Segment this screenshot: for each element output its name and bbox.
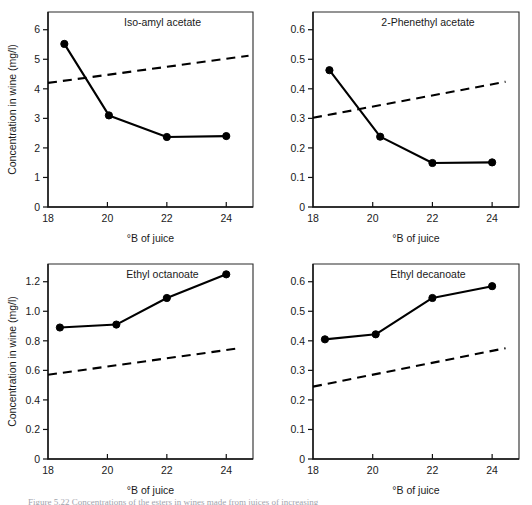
data-point-marker bbox=[113, 321, 120, 328]
data-point-marker bbox=[326, 67, 333, 74]
x-tick-label: 18 bbox=[42, 212, 54, 224]
figure-caption: Figure 5.22 Concentrations of the esters… bbox=[0, 497, 532, 505]
x-tick-label: 20 bbox=[102, 212, 114, 224]
data-point-marker bbox=[105, 112, 112, 119]
series-line-measured bbox=[64, 44, 226, 137]
chart-svg: 00.10.20.30.40.50.618202224Ethyl decanoa… bbox=[266, 252, 532, 504]
x-tick-label: 20 bbox=[367, 464, 379, 476]
x-tick-label: 18 bbox=[307, 212, 319, 224]
y-tick-label: 0.2 bbox=[290, 394, 305, 406]
y-tick-label: 0.6 bbox=[290, 275, 305, 287]
y-tick-label: 0 bbox=[34, 201, 40, 213]
y-tick-label: 2 bbox=[34, 142, 40, 154]
y-tick-label: 1 bbox=[34, 171, 40, 183]
chart-title: Iso-amyl acetate bbox=[124, 16, 201, 28]
y-tick-label: 0.1 bbox=[290, 423, 305, 435]
x-tick-label: 24 bbox=[220, 212, 232, 224]
x-tick-label: 20 bbox=[102, 464, 114, 476]
x-tick-label: 24 bbox=[486, 464, 498, 476]
chart-title: Ethyl octanoate bbox=[126, 268, 199, 280]
figure-container: 012345618202224Iso-amyl acetate°B of jui… bbox=[0, 0, 532, 505]
data-point-marker bbox=[163, 294, 170, 301]
plot-frame bbox=[313, 12, 519, 207]
x-axis-title: °B of juice bbox=[392, 232, 440, 244]
chart-panel-2-phenethyl-acetate: 00.10.20.30.40.50.6182022242-Phenethyl a… bbox=[266, 0, 532, 252]
chart-panel-ethyl-octanoate: 00.20.40.60.81.01.218202224Ethyl octanoa… bbox=[0, 252, 266, 504]
data-point-marker bbox=[223, 132, 230, 139]
series-line-measured bbox=[60, 274, 226, 327]
x-axis-title: °B of juice bbox=[127, 484, 175, 496]
y-tick-label: 0.4 bbox=[25, 394, 40, 406]
data-point-marker bbox=[429, 294, 436, 301]
y-tick-label: 0.1 bbox=[290, 171, 305, 183]
data-point-marker bbox=[377, 133, 384, 140]
series-line-expected bbox=[313, 348, 506, 386]
plot-frame bbox=[48, 12, 253, 207]
y-axis-title: Concentration in wine (mg/l) bbox=[6, 44, 18, 175]
data-point-marker bbox=[489, 283, 496, 290]
plot-axes bbox=[313, 12, 519, 207]
data-point-marker bbox=[429, 159, 436, 166]
y-tick-label: 0.2 bbox=[25, 423, 40, 435]
plot-axes bbox=[48, 12, 253, 207]
x-tick-label: 22 bbox=[161, 212, 173, 224]
y-tick-label: 0 bbox=[299, 201, 305, 213]
figure-caption-strip: Figure 5.22 Concentrations of the esters… bbox=[0, 497, 532, 505]
series-line-expected bbox=[48, 348, 240, 375]
chart-title: 2-Phenethyl acetate bbox=[381, 16, 475, 28]
x-tick-label: 22 bbox=[427, 212, 439, 224]
plot-frame bbox=[313, 264, 519, 459]
y-tick-label: 0.5 bbox=[290, 305, 305, 317]
y-axis-title: Concentration in wine (mg/l) bbox=[6, 296, 18, 427]
x-tick-label: 18 bbox=[42, 464, 54, 476]
data-point-marker bbox=[223, 271, 230, 278]
y-tick-label: 0.5 bbox=[290, 53, 305, 65]
chart-svg: 00.10.20.30.40.50.6182022242-Phenethyl a… bbox=[266, 0, 532, 252]
x-tick-label: 20 bbox=[367, 212, 379, 224]
plot-axes bbox=[313, 264, 519, 459]
x-tick-label: 24 bbox=[220, 464, 232, 476]
series-line-measured bbox=[329, 70, 492, 163]
y-tick-label: 4 bbox=[34, 83, 40, 95]
data-point-marker bbox=[61, 40, 68, 47]
y-tick-label: 0.8 bbox=[25, 335, 40, 347]
y-tick-label: 0 bbox=[299, 453, 305, 465]
chart-svg: 00.20.40.60.81.01.218202224Ethyl octanoa… bbox=[0, 252, 266, 504]
chart-panel-ethyl-decanoate: 00.10.20.30.40.50.618202224Ethyl decanoa… bbox=[266, 252, 532, 504]
y-tick-label: 1.0 bbox=[25, 305, 40, 317]
y-tick-label: 0.3 bbox=[290, 112, 305, 124]
x-axis-title: °B of juice bbox=[392, 484, 440, 496]
y-tick-label: 1.2 bbox=[25, 275, 40, 287]
y-tick-label: 0.2 bbox=[290, 142, 305, 154]
y-tick-label: 6 bbox=[34, 23, 40, 35]
x-tick-label: 24 bbox=[486, 212, 498, 224]
x-axis-title: °B of juice bbox=[127, 232, 175, 244]
plot-axes bbox=[48, 264, 253, 459]
y-tick-label: 0.6 bbox=[25, 364, 40, 376]
y-tick-label: 0.4 bbox=[290, 335, 305, 347]
chart-svg: 012345618202224Iso-amyl acetate°B of jui… bbox=[0, 0, 266, 252]
series-line-measured bbox=[325, 286, 492, 339]
data-point-marker bbox=[321, 336, 328, 343]
chart-panel-iso-amyl-acetate: 012345618202224Iso-amyl acetate°B of jui… bbox=[0, 0, 266, 252]
x-tick-label: 22 bbox=[161, 464, 173, 476]
data-point-marker bbox=[489, 159, 496, 166]
x-tick-label: 18 bbox=[307, 464, 319, 476]
plot-frame bbox=[48, 264, 253, 459]
y-tick-label: 0 bbox=[34, 453, 40, 465]
x-tick-label: 22 bbox=[427, 464, 439, 476]
y-tick-label: 3 bbox=[34, 112, 40, 124]
y-tick-label: 5 bbox=[34, 53, 40, 65]
y-tick-label: 0.3 bbox=[290, 364, 305, 376]
series-line-expected bbox=[48, 56, 249, 83]
data-point-marker bbox=[372, 331, 379, 338]
y-tick-label: 0.4 bbox=[290, 83, 305, 95]
data-point-marker bbox=[56, 324, 63, 331]
data-point-marker bbox=[163, 133, 170, 140]
chart-title: Ethyl decanoate bbox=[390, 268, 465, 280]
y-tick-label: 0.6 bbox=[290, 23, 305, 35]
